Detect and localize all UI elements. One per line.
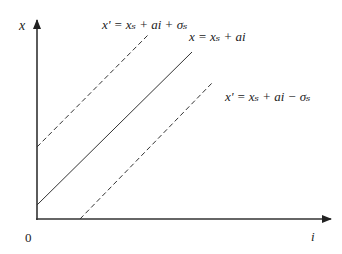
center-line-equation: x = xₛ + ai bbox=[188, 29, 246, 44]
upper-line-equation: x' = xₛ + ai + σₛ bbox=[101, 17, 187, 32]
lower-dashed-line bbox=[80, 82, 213, 219]
center-solid-line bbox=[37, 52, 192, 205]
lower-line-equation: x' = xₛ + ai − σₛ bbox=[224, 89, 310, 104]
upper-dashed-line bbox=[37, 35, 148, 147]
diagram-canvas: x i 0 x' = xₛ + ai + σₛ x = xₛ + ai x' =… bbox=[0, 0, 342, 254]
x-axis-label: i bbox=[311, 229, 315, 244]
y-axis-label: x bbox=[18, 18, 26, 33]
origin-label: 0 bbox=[25, 230, 32, 245]
